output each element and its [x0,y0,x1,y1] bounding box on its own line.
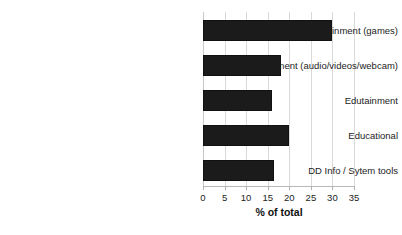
x-tick-label-20: 20 [277,192,301,203]
x-axis-title: % of total [203,206,355,218]
x-tick-label-25: 25 [299,192,323,203]
category-label-entertainment-games: Entertainment (games) [206,25,402,36]
category-label-dd-info-sytem-tools: DD Info / Sytem tools [206,165,402,176]
tickmark-0 [203,186,204,190]
tickmark-35 [354,186,355,190]
tickmark-20 [289,186,290,190]
tickmark-5 [225,186,226,190]
category-label-edutainment: Edutainment [206,95,402,106]
bar-chart: Entertainment (games) Entertainment (aud… [0,0,402,235]
x-tick-label-0: 0 [191,192,215,203]
x-tick-label-5: 5 [213,192,237,203]
tickmark-15 [268,186,269,190]
x-tick-label-30: 30 [320,192,344,203]
tickmark-25 [311,186,312,190]
tickmark-30 [332,186,333,190]
x-tick-label-35: 35 [342,192,366,203]
category-label-educational: Educational [206,130,402,141]
x-tick-label-10: 10 [234,192,258,203]
x-tick-label-15: 15 [256,192,280,203]
tickmark-10 [246,186,247,190]
category-label-entertainment-audio-videos-webcam: Entertainment (audio/videos/webcam) [206,60,402,71]
